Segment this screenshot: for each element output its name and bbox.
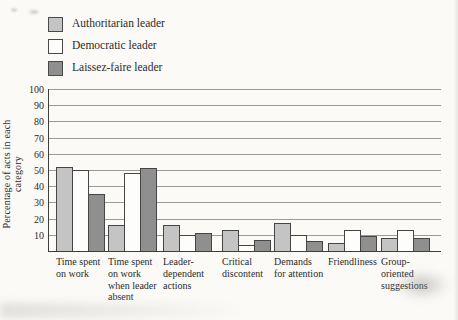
category-label: Demands for attention — [274, 256, 324, 280]
bar — [179, 235, 196, 251]
bar — [140, 168, 157, 251]
y-tick-label-30: 30 — [14, 198, 44, 208]
y-tick-label-90: 90 — [14, 101, 44, 111]
y-tick-label-70: 70 — [14, 134, 44, 144]
legend-label: Democratic leader — [72, 40, 157, 52]
category-label: Time spent on work when leader absent — [108, 256, 158, 303]
bar — [344, 230, 361, 251]
category-label: Leader-dependent actions — [163, 256, 213, 291]
bar — [88, 194, 105, 251]
legend-label: Authoritarian leader — [72, 18, 165, 30]
bar-group-4 — [222, 89, 273, 251]
y-tick-label-10: 10 — [14, 231, 44, 241]
legend-item: Democratic leader — [48, 35, 165, 57]
category-label: Critical discontent — [222, 256, 272, 280]
scan-artifact — [0, 303, 250, 318]
legend-swatch — [48, 17, 63, 32]
y-tick-label-80: 80 — [14, 117, 44, 127]
legend-swatch — [48, 39, 63, 54]
y-tick-label-60: 60 — [14, 150, 44, 160]
plot-area — [48, 89, 441, 252]
legend-item: Authoritarian leader — [48, 13, 165, 35]
bar — [195, 233, 212, 251]
bar — [413, 238, 430, 251]
bar — [290, 235, 307, 251]
bar — [163, 225, 180, 251]
legend-item: Laissez-faire leader — [48, 57, 165, 79]
scan-artifact — [8, 4, 44, 16]
bar — [254, 240, 271, 251]
category-label: Group-oriented suggestions — [381, 256, 431, 291]
bar — [274, 223, 291, 251]
bar — [397, 230, 414, 251]
bar — [108, 225, 125, 251]
bar-group-1 — [56, 89, 107, 251]
bar — [306, 241, 323, 251]
bar-group-7 — [381, 89, 432, 251]
bar — [124, 173, 141, 251]
bar — [360, 236, 377, 251]
legend-swatch — [48, 61, 63, 76]
legend-label: Laissez-faire leader — [72, 62, 162, 74]
scan-artifact — [453, 0, 458, 320]
scanned-bar-chart-figure: Authoritarian leaderDemocratic leaderLai… — [0, 0, 458, 320]
bar — [328, 243, 345, 251]
bar — [238, 245, 255, 251]
bar — [72, 170, 89, 251]
bar-group-2 — [108, 89, 159, 251]
y-tick-label-20: 20 — [14, 215, 44, 225]
bar — [56, 167, 73, 251]
y-tick-label-40: 40 — [14, 182, 44, 192]
y-tick-label-50: 50 — [14, 166, 44, 176]
bar — [222, 230, 239, 251]
bar — [381, 238, 398, 251]
bar-group-5 — [274, 89, 325, 251]
chart-legend: Authoritarian leaderDemocratic leaderLai… — [48, 13, 165, 79]
y-tick-label-100: 100 — [14, 85, 44, 95]
bar-group-6 — [328, 89, 379, 251]
category-label: Time spent on work — [56, 256, 106, 280]
category-label: Friendliness — [328, 256, 378, 268]
bar-group-3 — [163, 89, 214, 251]
